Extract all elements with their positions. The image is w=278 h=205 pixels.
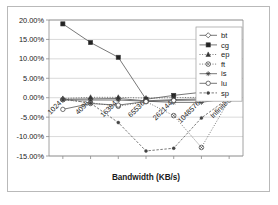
chart-container: 20.00%15.00%10.00%5.00%0.00%-5.00%-10.00… bbox=[0, 0, 278, 205]
legend-marker-cg bbox=[206, 43, 210, 47]
x-tick-label: 16384 bbox=[98, 99, 119, 120]
data-point-cg-0 bbox=[61, 22, 65, 26]
legend-marker-lu bbox=[206, 81, 210, 85]
data-point-lu-2 bbox=[116, 103, 120, 107]
y-tick-label: 5.00% bbox=[23, 74, 44, 83]
legend-label-bt: bt bbox=[221, 31, 228, 40]
data-point-sp-1 bbox=[89, 102, 92, 105]
y-tick-label: -5.00% bbox=[21, 113, 45, 122]
y-tick-label: -15.00% bbox=[16, 152, 44, 161]
legend-label-is: is bbox=[221, 69, 227, 78]
legend-label-cg: cg bbox=[221, 41, 229, 50]
y-tick-label: 10.00% bbox=[19, 54, 44, 63]
data-point-lu-4 bbox=[172, 98, 176, 102]
y-tick-label: 0.00% bbox=[23, 93, 44, 102]
y-tick-label: 20.00% bbox=[19, 16, 44, 25]
data-point-ft-4 bbox=[171, 113, 176, 118]
data-point-is-2 bbox=[116, 98, 121, 103]
data-point-lu-3 bbox=[144, 99, 148, 103]
x-axis-title: Bandwidth (KB/s) bbox=[112, 173, 180, 182]
y-tick-label: 15.00% bbox=[19, 35, 44, 44]
data-point-cg-2 bbox=[116, 55, 120, 59]
legend-marker-sp bbox=[207, 91, 210, 94]
legend-marker-ft bbox=[206, 62, 211, 67]
data-point-sp-3 bbox=[145, 149, 148, 152]
data-point-cg-1 bbox=[88, 40, 92, 44]
data-point-sp-0 bbox=[61, 97, 64, 100]
data-point-sp-4 bbox=[172, 147, 175, 150]
y-tick-label: -10.00% bbox=[16, 132, 44, 141]
data-point-sp-2 bbox=[117, 121, 120, 124]
data-point-sp-5 bbox=[200, 116, 203, 119]
line-chart: 20.00%15.00%10.00%5.00%0.00%-5.00%-10.00… bbox=[0, 0, 278, 205]
data-point-ft-5 bbox=[199, 145, 204, 150]
x-tick-label: 1024 bbox=[46, 99, 64, 117]
data-point-lu-0 bbox=[61, 107, 65, 111]
legend-label-sp: sp bbox=[221, 89, 229, 98]
legend-label-ep: ep bbox=[221, 50, 229, 59]
legend-label-lu: lu bbox=[221, 79, 227, 88]
legend-marker-is bbox=[206, 71, 211, 76]
